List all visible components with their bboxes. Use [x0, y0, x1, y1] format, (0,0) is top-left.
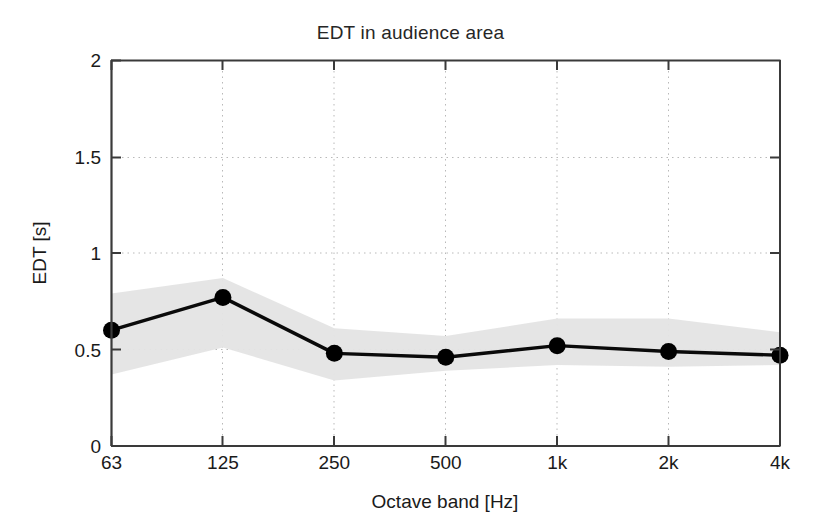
data-point-marker [437, 349, 454, 366]
y-tick-label: 1.5 [75, 147, 101, 168]
x-tick-label: 2k [659, 452, 680, 473]
chart-plot-area: 00.511.52 631252505001k2k4k Octave band … [0, 0, 821, 525]
x-tick-label: 4k [770, 452, 791, 473]
x-axis-title: Octave band [Hz] [372, 491, 519, 512]
data-point-marker [660, 343, 677, 360]
x-tick-label: 63 [101, 452, 122, 473]
data-point-marker [326, 345, 343, 362]
y-tick-labels: 00.511.52 [75, 50, 101, 457]
x-tick-labels: 631252505001k2k4k [101, 452, 791, 473]
x-tick-label: 125 [207, 452, 239, 473]
x-tick-label: 500 [430, 452, 462, 473]
x-tick-label: 1k [547, 452, 568, 473]
y-axis-title: EDT [s] [29, 222, 50, 285]
y-tick-label: 0.5 [75, 340, 101, 361]
y-tick-label: 2 [90, 50, 101, 71]
y-tick-label: 0 [90, 436, 101, 457]
x-tick-label: 250 [318, 452, 350, 473]
chart-figure: EDT in audience area [0, 0, 821, 525]
data-point-marker [214, 289, 231, 306]
y-tick-label: 1 [90, 243, 101, 264]
data-point-marker [549, 337, 566, 354]
